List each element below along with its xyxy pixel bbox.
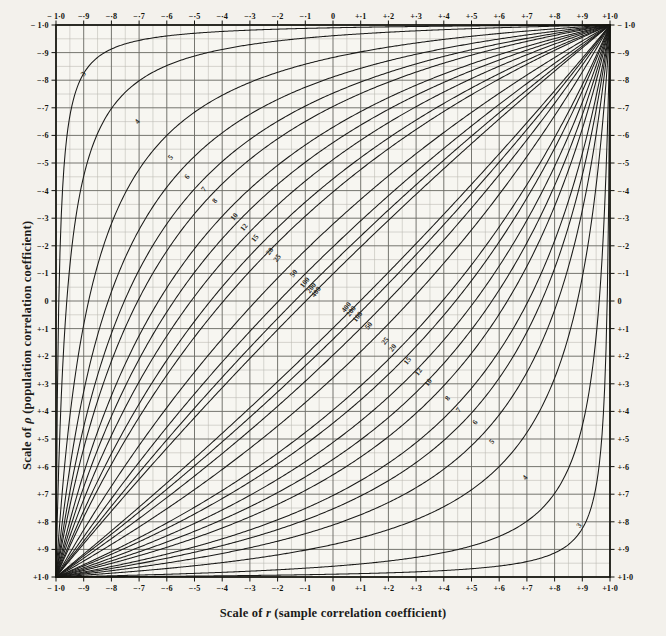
tick-label-top: −·7 — [133, 12, 145, 21]
tick-label-top: +·2 — [383, 12, 395, 21]
tick-label-left: −·9 — [37, 49, 49, 58]
tick-label-left: −·5 — [37, 159, 49, 168]
tick-label-left: +·4 — [37, 407, 49, 416]
tick-label-bottom: +·5 — [466, 584, 478, 593]
tick-label-bottom: 0 — [331, 584, 335, 593]
tick-label-right: −·3 — [618, 214, 630, 223]
tick-label-bottom: +·4 — [438, 584, 450, 593]
tick-label-top: −·6 — [161, 12, 173, 21]
tick-label-top: −·3 — [244, 12, 256, 21]
x-axis-title-prefix: Scale of — [220, 606, 266, 620]
tick-label-top: −·4 — [216, 12, 228, 21]
tick-label-top: −·5 — [189, 12, 201, 21]
tick-label-right: +·2 — [618, 352, 630, 361]
tick-label-bottom: −·8 — [106, 584, 118, 593]
tick-label-top: −·2 — [272, 12, 284, 21]
grid-major — [56, 25, 610, 577]
tick-label-left: +·9 — [37, 545, 49, 554]
x-axis-title: Scale of r (sample correlation coefficie… — [0, 606, 666, 621]
tick-label-right: −·2 — [618, 242, 630, 251]
tick-label-left: +·7 — [37, 490, 49, 499]
tick-label-left: −·1 — [37, 269, 49, 278]
tick-label-left: +·6 — [37, 463, 49, 472]
tick-label-left: − 1·0 — [31, 21, 49, 30]
tick-label-top: +·8 — [549, 12, 561, 21]
tick-label-bottom: −·9 — [78, 584, 90, 593]
tick-label-bottom: +·9 — [577, 584, 589, 593]
tick-label-bottom: −·7 — [133, 584, 145, 593]
tick-label-left: +1·0 — [33, 573, 49, 582]
tick-label-right: −·8 — [618, 76, 630, 85]
y-axis-title-symbol: ρ — [20, 417, 34, 424]
tick-label-left: −·6 — [37, 131, 49, 140]
tick-label-bottom: +·2 — [383, 584, 395, 593]
tick-label-right: +·6 — [618, 463, 630, 472]
tick-label-bottom: +·6 — [493, 584, 505, 593]
tick-label-left: −·4 — [37, 187, 49, 196]
tick-label-top: − 1·0 — [47, 12, 65, 21]
tick-label-bottom: −·2 — [272, 584, 284, 593]
tick-label-bottom: +·8 — [549, 584, 561, 593]
tick-label-bottom: − 1·0 — [47, 584, 65, 593]
tick-label-bottom: +1·0 — [602, 584, 618, 593]
tick-label-right: −·4 — [618, 187, 630, 196]
tick-label-right: −·6 — [618, 131, 630, 140]
tick-label-right: +·3 — [618, 380, 630, 389]
x-axis-title-suffix: (sample correlation coefficient) — [271, 606, 446, 620]
correlation-confidence-belt-figure: 3456781012152025501002004003456781012152… — [0, 0, 666, 636]
tick-label-top: −·9 — [78, 12, 90, 21]
tick-label-left: +·5 — [37, 435, 49, 444]
y-axis-title-suffix: (population correlation coefficient) — [20, 221, 34, 417]
y-axis-title-prefix: Scale of — [20, 424, 34, 470]
tick-label-left: −·7 — [37, 104, 49, 113]
tick-label-top: +·3 — [410, 12, 422, 21]
tick-label-bottom: −·4 — [216, 584, 228, 593]
tick-label-right: −·9 — [618, 49, 630, 58]
tick-label-bottom: +·1 — [355, 584, 367, 593]
tick-label-top: +·9 — [577, 12, 589, 21]
tick-label-top: +1·0 — [602, 12, 618, 21]
tick-label-top: +·6 — [493, 12, 505, 21]
tick-label-left: +·2 — [37, 352, 49, 361]
tick-label-top: −·8 — [106, 12, 118, 21]
tick-label-right: +·1 — [618, 325, 630, 334]
chart-canvas: 3456781012152025501002004003456781012152… — [0, 0, 666, 636]
tick-label-bottom: −·3 — [244, 584, 256, 593]
tick-label-left: +·3 — [37, 380, 49, 389]
tick-label-right: −·7 — [618, 104, 630, 113]
tick-label-left: +·1 — [37, 325, 49, 334]
tick-label-left: 0 — [44, 297, 48, 306]
y-axis-title: Scale of ρ (population correlation coeff… — [20, 221, 35, 470]
tick-label-left: −·8 — [37, 76, 49, 85]
tick-label-bottom: +·3 — [410, 584, 422, 593]
tick-label-right: +·7 — [618, 490, 630, 499]
tick-label-right: +·5 — [618, 435, 630, 444]
tick-label-right: −·1 — [618, 269, 630, 278]
tick-label-top: +·7 — [521, 12, 533, 21]
tick-label-right: +·8 — [618, 518, 630, 527]
tick-label-right: +·9 — [618, 545, 630, 554]
tick-label-right: +·4 — [618, 407, 630, 416]
tick-label-right: − 1·0 — [618, 21, 636, 30]
tick-label-top: +·1 — [355, 12, 367, 21]
tick-label-right: −·5 — [618, 159, 630, 168]
tick-label-top: +·5 — [466, 12, 478, 21]
tick-label-left: −·2 — [37, 242, 49, 251]
tick-label-left: −·3 — [37, 214, 49, 223]
tick-label-top: +·4 — [438, 12, 450, 21]
tick-label-left: +·8 — [37, 518, 49, 527]
tick-label-bottom: −·5 — [189, 584, 201, 593]
tick-label-right: 0 — [618, 297, 622, 306]
tick-label-top: −·1 — [300, 12, 312, 21]
tick-label-bottom: −·6 — [161, 584, 173, 593]
tick-label-bottom: −·1 — [300, 584, 312, 593]
tick-label-top: 0 — [331, 12, 335, 21]
tick-label-bottom: +·7 — [521, 584, 533, 593]
tick-label-right: +1·0 — [618, 573, 634, 582]
